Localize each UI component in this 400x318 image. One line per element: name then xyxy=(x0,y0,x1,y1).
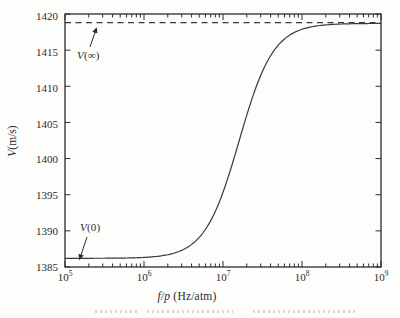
x-tick-label-1e7: 107 xyxy=(206,271,240,284)
annotation-v-zero: V(0) xyxy=(80,221,100,233)
x-tick-label-1e8: 108 xyxy=(285,271,319,284)
figure-root: 1420 1415 1410 1405 1400 1395 1390 1385 … xyxy=(0,0,400,318)
caption-fragment xyxy=(95,310,137,313)
y-tick-label-1420: 1420 xyxy=(28,10,58,22)
y-tick-label-1405: 1405 xyxy=(28,118,58,130)
y-tick-label-1415: 1415 xyxy=(28,46,58,58)
x-tick-label-1e5: 105 xyxy=(48,271,82,284)
y-axis-label: V(m/s) xyxy=(6,101,20,181)
y-tick-label-1400: 1400 xyxy=(28,153,58,165)
caption-fragment xyxy=(147,310,233,313)
x-tick-label-1e6: 106 xyxy=(127,271,161,284)
caption-fragment xyxy=(253,310,357,313)
annotation-v-infinity: V(∞) xyxy=(77,49,100,61)
y-tick-label-1395: 1395 xyxy=(28,189,58,201)
cropped-caption-remnant xyxy=(95,310,357,314)
x-tick-label-1e9: 109 xyxy=(364,271,398,284)
y-tick-label-1390: 1390 xyxy=(28,225,58,237)
y-tick-label-1410: 1410 xyxy=(28,82,58,94)
x-axis-label: f/p (Hz/atm) xyxy=(124,290,250,302)
